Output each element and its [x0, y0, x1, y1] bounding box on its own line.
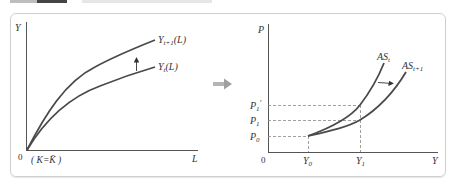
tick-p1: P1 — [249, 115, 260, 128]
tick-y0: Y0 — [303, 155, 313, 168]
diagram-canvas: Y L 0 ( K=K̄ ) Yt+1(L) Yt(L) P Y 0 P1′ P… — [0, 0, 453, 186]
transition-right-arrow-icon — [213, 79, 232, 90]
curve-as-t — [308, 63, 384, 136]
tick-p0: P0 — [249, 131, 260, 144]
right-x-axis-label: Y — [432, 155, 439, 166]
curve-label-y-t-plus-1: Yt+1(L) — [158, 34, 187, 47]
curve-y-t-plus-1 — [27, 40, 155, 150]
left-origin-label: 0 — [18, 152, 23, 162]
curve-label-y-t: Yt(L) — [158, 61, 178, 74]
left-y-axis-label: Y — [15, 22, 22, 33]
capital-condition-label: ( K=K̄ ) — [31, 155, 61, 166]
left-graph: Y L 0 ( K=K̄ ) Yt+1(L) Yt(L) — [15, 22, 198, 166]
curve-label-as-t-plus-1: ASt+1 — [401, 60, 423, 73]
left-x-axis-label: L — [191, 153, 198, 164]
right-origin-label: 0 — [261, 155, 266, 165]
tick-y1: Y1 — [356, 155, 365, 168]
right-graph: P Y 0 P1′ P1 P0 Y0 Y1 ASt ASt+1 — [249, 24, 439, 168]
rightward-shift-arrow-icon — [378, 83, 393, 84]
curve-as-t-plus-1 — [308, 72, 406, 136]
curve-label-as-t: ASt — [376, 51, 391, 64]
dashed-guides — [268, 105, 361, 152]
curve-y-t — [27, 67, 155, 150]
tick-p1-prime: P1′ — [249, 99, 262, 113]
right-y-axis-label: P — [257, 24, 264, 35]
